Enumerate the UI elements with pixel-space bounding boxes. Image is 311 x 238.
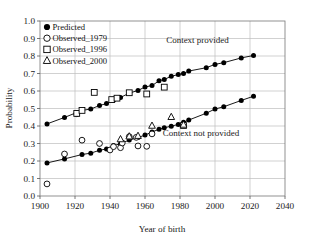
y-axis-tick-labels: 0.00.10.20.30.40.50.60.70.80.91.0 — [24, 16, 36, 201]
data-point — [186, 118, 191, 123]
data-point — [144, 91, 150, 97]
annotation-label: Context not provided — [163, 128, 240, 138]
x-tick-label: 2040 — [276, 201, 295, 211]
y-tick-label: 0.6 — [24, 86, 36, 96]
y-tick-label: 0.0 — [24, 191, 36, 201]
data-point — [97, 141, 103, 147]
data-point — [169, 74, 174, 79]
data-point — [251, 94, 256, 99]
data-point — [186, 69, 191, 74]
data-point — [221, 104, 226, 109]
legend-marker-open-square — [44, 46, 50, 52]
legend-marker-filled-circle — [44, 24, 50, 30]
y-tick-label: 1.0 — [24, 16, 36, 26]
x-tick-label: 1920 — [66, 201, 85, 211]
data-point — [44, 181, 50, 187]
y-axis-ticks — [37, 21, 40, 196]
data-point — [97, 103, 102, 108]
data-point — [97, 148, 102, 153]
x-tick-label: 1940 — [101, 201, 120, 211]
legend-marker-open-circle — [44, 35, 50, 41]
data-point — [157, 127, 162, 132]
data-point — [143, 133, 148, 138]
data-point — [162, 77, 167, 82]
data-point — [45, 160, 50, 165]
data-point — [176, 72, 181, 77]
x-tick-label: 1980 — [171, 201, 190, 211]
legend-label: Observed_1996 — [53, 44, 108, 54]
y-tick-label: 0.4 — [24, 121, 36, 131]
y-tick-label: 0.5 — [24, 104, 36, 114]
data-point — [176, 122, 181, 127]
data-point — [181, 71, 186, 76]
data-point — [150, 83, 155, 88]
data-point — [62, 115, 67, 120]
data-point — [149, 131, 155, 137]
y-tick-label: 0.7 — [24, 69, 36, 79]
data-point — [88, 107, 93, 112]
x-axis-title: Year of birth — [139, 224, 186, 234]
y-tick-label: 0.3 — [24, 139, 36, 149]
data-point — [104, 101, 109, 106]
data-point — [80, 152, 85, 157]
x-tick-label: 1960 — [136, 201, 155, 211]
data-point — [157, 78, 162, 83]
data-point — [91, 90, 97, 96]
x-tick-label: 1900 — [31, 201, 50, 211]
data-point — [111, 144, 117, 150]
data-point — [136, 88, 141, 93]
data-point — [204, 65, 209, 70]
data-point — [144, 143, 150, 149]
data-point — [239, 98, 244, 103]
x-tick-label: 2020 — [241, 201, 260, 211]
data-point — [143, 84, 148, 89]
y-tick-label: 0.2 — [24, 156, 36, 166]
data-point — [251, 53, 256, 58]
data-point — [114, 95, 120, 101]
data-point — [126, 90, 132, 96]
x-tick-label: 2000 — [206, 201, 225, 211]
data-point — [88, 151, 93, 156]
y-tick-label: 0.8 — [24, 51, 36, 61]
data-point — [79, 108, 85, 114]
data-point — [213, 107, 218, 112]
data-point — [62, 151, 68, 157]
legend-label: Observed_2000 — [53, 56, 107, 66]
chart-figure: 19001920194019601980200020202040 0.00.10… — [0, 0, 311, 238]
data-point — [45, 121, 50, 126]
legend-label: Predicted — [53, 22, 86, 32]
y-tick-label: 0.9 — [24, 34, 36, 44]
data-point — [239, 55, 244, 60]
annotation-label: Context provided — [166, 35, 229, 45]
x-axis-tick-labels: 19001920194019601980200020202040 — [31, 201, 295, 211]
y-axis-title: Probability — [4, 87, 14, 128]
data-point — [221, 60, 226, 65]
data-point — [161, 84, 167, 90]
data-point — [79, 137, 85, 143]
y-tick-label: 0.1 — [24, 174, 36, 184]
data-point — [213, 62, 218, 67]
legend-label: Observed_1979 — [53, 33, 107, 43]
data-point — [204, 111, 209, 116]
data-point — [135, 143, 141, 149]
x-axis-ticks — [40, 196, 285, 199]
probability-vs-year-of-birth-chart: 19001920194019601980200020202040 0.00.10… — [0, 0, 311, 238]
